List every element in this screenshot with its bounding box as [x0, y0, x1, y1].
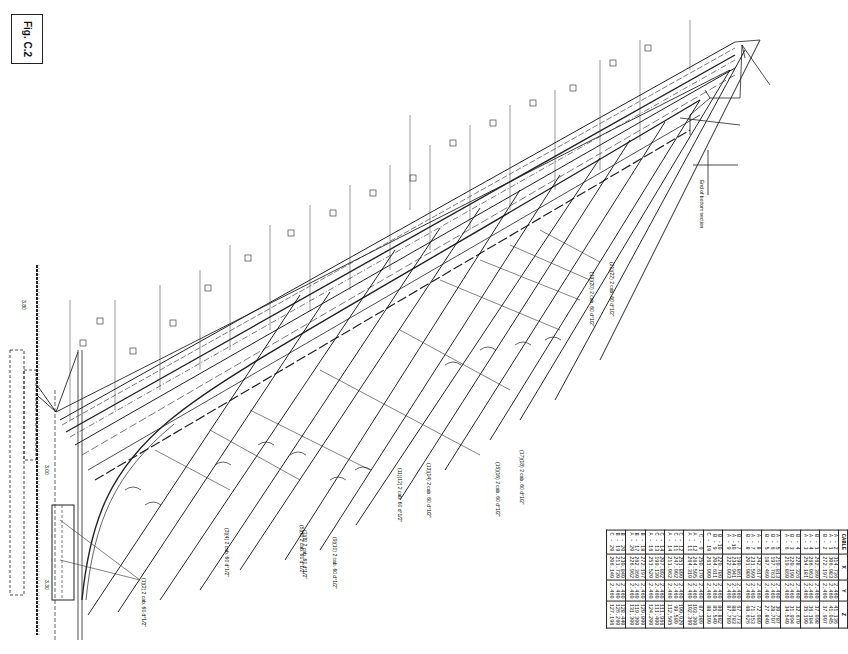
cable-label: (15)(16) 2 cab. 60 d°1/2"	[495, 462, 501, 517]
table-row: A - 5 B - 6 B - 5210.813 197.763 187.460…	[761, 530, 780, 628]
table-row: B - 1 A - 4 A - 3262.360 266.063 254.181…	[800, 530, 819, 628]
table-cell: 2.460 2.460 2.460	[741, 581, 760, 602]
table-row: C - 12 C - 11 A - 14251.800 247.002 211.…	[664, 530, 683, 628]
table-cell: 207.802 199.130 251.520	[645, 554, 664, 581]
table-cell: 86.882 85.540 88.300	[703, 601, 722, 628]
table-cell: 242.617 231.509 201.080	[741, 554, 760, 581]
table-cell: 128.440 126.260 127.196	[606, 601, 625, 628]
header-x: X	[838, 554, 847, 581]
cable-label: (13)(14) 2 cab. 60 d°1/2"	[426, 463, 432, 518]
pier-structure	[37, 70, 730, 412]
tick-leaders	[70, 20, 690, 420]
table-cell: 250.170 264.505 264.310	[683, 554, 702, 581]
table-cell: 190.861 234.941 222.003	[722, 554, 741, 581]
table-cell: B - 7 A -10 A - 9	[722, 530, 741, 554]
table-cell: A - 2 A - 1 B - 2	[819, 530, 838, 554]
cable-label: (9)(10) 2 cab. 60 d°1/2"	[332, 537, 338, 589]
table-cell: 67.773 88.783 87.789	[722, 601, 741, 628]
table-cell: 100.020 99.580 112.505	[664, 601, 683, 628]
table-body: A - 2 A - 1 B - 2314.736 306.983 272.197…	[606, 530, 838, 628]
table-row: A - 8 A - 7 B - 8242.617 231.509 201.080…	[741, 530, 760, 628]
table-cell: 228.326 220.190 219.860	[780, 554, 799, 581]
dim-label-bottom: 3.30	[44, 580, 50, 590]
connection-markers	[80, 45, 651, 354]
table-cell: 30.787 28.707 27.840	[761, 601, 780, 628]
header-y: Y	[838, 581, 847, 602]
table-row: B - 20 B - 19 C - 20230.840 211.730 206.…	[606, 530, 625, 628]
dim-label-top: 3.80	[21, 300, 27, 310]
cable-coordinates-table-wrap: CABLE X Y Z A - 2 A - 1 B - 2314.736 306…	[619, 521, 834, 637]
cable-label: (3)(4) 2 cab. 60 d°1/2"	[224, 528, 230, 577]
anchor-cluster	[680, 40, 770, 195]
table-cell: B - 18 B - 17 A - 20	[625, 530, 644, 554]
table-cell: 2.460 2.460 2.460	[800, 581, 819, 602]
table-cell: B -10 B - 9 C - 10	[703, 530, 722, 554]
table-cell: 2.460 2.460 2.460	[722, 581, 741, 602]
table-row: A - 2 A - 1 B - 2314.736 306.983 272.197…	[819, 530, 838, 628]
header-z: Z	[838, 601, 847, 628]
end-bottom-section-label: End of bottom section	[699, 180, 705, 229]
table-cell: 32.670 31.994 34.540	[780, 601, 799, 628]
table-row: B - 7 A -10 A - 9190.861 234.941 222.003…	[722, 530, 741, 628]
cable-label: (7)(8) 2 cab. 60 d°1/2"	[302, 530, 308, 579]
table-cell: 251.800 247.002 211.062	[664, 554, 683, 581]
cable-label: (19)(20) 2 cab. 60 d°1/2"	[589, 272, 595, 327]
table-cell: 2.460 2.460 2.460	[683, 581, 702, 602]
table-cell: 210.813 197.763 187.460	[761, 554, 780, 581]
table-cell: A - 8 A - 7 B - 8	[741, 530, 760, 554]
table-cell: 2.460 2.460 2.460	[780, 581, 799, 602]
table-cell: 37.098 36.184 35.190	[800, 601, 819, 628]
cable-coordinates-table: CABLE X Y Z A - 2 A - 1 B - 2314.736 306…	[605, 530, 847, 629]
cable-label: (1)(2) 2 cab. 60 d°1/2"	[141, 578, 147, 627]
table-cell: 2.460 2.460 2.460	[645, 581, 664, 602]
table-cell: 2.460 2.460 2.460	[664, 581, 683, 602]
table-cell: A - 5 B - 6 B - 5	[761, 530, 780, 554]
table-cell: 41.136 41.045 37.907	[819, 601, 838, 628]
table-cell: 272.197 262.360 226.962	[625, 554, 644, 581]
table-cell: C - 14 C - 13 A - 16	[645, 530, 664, 554]
table-row: B -10 B - 9 C - 10220.780 204.611 261.00…	[703, 530, 722, 628]
table-cell: 120.800 119.300 131.300	[625, 601, 644, 628]
table-cell: C - 9 A - 12 A - 11	[683, 530, 702, 554]
table-row: B - 4 B - 3 A - 6228.326 220.190 219.860…	[780, 530, 799, 628]
table-cell: 72.080 71.153 68.626	[741, 601, 760, 628]
dim-label-mid: 3.00	[44, 465, 50, 475]
header-cable: CABLE	[838, 530, 847, 554]
table-cell: 314.736 306.983 272.197	[819, 554, 838, 581]
table-cell: 262.360 266.063 254.181	[800, 554, 819, 581]
table-cell: 2.460 2.460 2.460	[819, 581, 838, 602]
table-row: C - 14 C - 13 A - 16207.802 199.130 251.…	[645, 530, 664, 628]
cable-label: (11)(12) 2 cab. 60 d°1/2"	[397, 468, 403, 522]
table-cell: 2.460 2.460 2.460	[761, 581, 780, 602]
cable-label: (17)(18) 2 cab. 60 d°1/2"	[519, 450, 525, 505]
table-cell: 111.966 111.400 124.200	[645, 601, 664, 628]
table-row: C - 9 A - 12 A - 11250.170 264.505 264.3…	[683, 530, 702, 628]
table-cell: 230.840 211.730 206.140	[606, 554, 625, 581]
table-cell: 220.780 204.611 261.000	[703, 554, 722, 581]
table-row: B - 18 B - 17 A - 20272.197 262.360 226.…	[625, 530, 644, 628]
table-cell: 87.380 103.300 102.360	[683, 601, 702, 628]
table-cell: 2.460 2.460 2.460	[606, 581, 625, 602]
berth-lines	[60, 42, 735, 480]
table-cell: B - 1 A - 4 A - 3	[800, 530, 819, 554]
table-cell: B - 4 B - 3 A - 6	[780, 530, 799, 554]
table-cell: 2.460 2.460 2.460	[703, 581, 722, 602]
table-cell: B - 20 B - 19 C - 20	[606, 530, 625, 554]
table-cell: C - 12 C - 11 A - 14	[664, 530, 683, 554]
table-cell: 2.460 2.460 2.460	[625, 581, 644, 602]
cable-label: (21)(22) 2 cab. 60 d°1/2"	[609, 262, 615, 317]
